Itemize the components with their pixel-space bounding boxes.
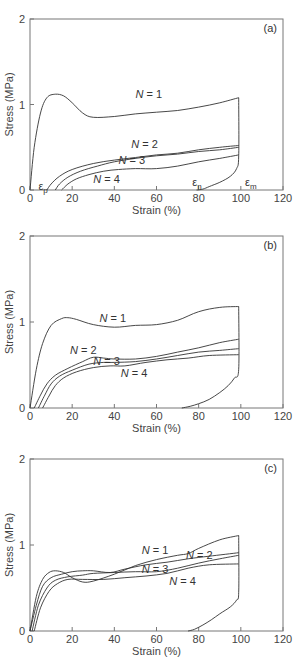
x-tick-label: 20 (66, 410, 78, 422)
series-label: N = 3 (119, 154, 146, 166)
chart-panel-b: 020406080100120012Strain (%)Stress (MPa)… (3, 230, 292, 434)
y-axis-label: Stress (MPa) (3, 290, 15, 354)
strain-annotation: εn (192, 176, 201, 191)
x-tick-label: 120 (274, 192, 292, 204)
x-tick-label: 0 (27, 410, 33, 422)
y-tick-label: 0 (19, 184, 25, 196)
series-label: N = 4 (169, 575, 196, 587)
x-axis-label: Strain (%) (132, 645, 181, 657)
plot-frame (30, 19, 283, 190)
curve-n1 (30, 307, 239, 409)
x-tick-label: 40 (108, 410, 120, 422)
panel-tag: (b) (264, 239, 277, 251)
series-label: N = 2 (131, 138, 158, 150)
y-tick-label: 0 (19, 402, 25, 414)
curve-n2 (30, 553, 239, 631)
x-tick-label: 40 (108, 633, 120, 645)
x-tick-label: 0 (27, 192, 33, 204)
panel-tag: (c) (264, 462, 277, 474)
x-tick-label: 20 (66, 192, 78, 204)
y-tick-label: 2 (19, 13, 25, 25)
series-label: N = 2 (186, 549, 213, 561)
curve-n4 (62, 155, 239, 190)
y-tick-label: 0 (19, 625, 25, 637)
x-tick-label: 80 (193, 192, 205, 204)
x-tick-label: 40 (108, 192, 120, 204)
x-tick-label: 60 (150, 633, 162, 645)
x-tick-label: 100 (232, 633, 250, 645)
x-tick-label: 80 (193, 633, 205, 645)
x-tick-label: 0 (27, 633, 33, 645)
series-label: N = 1 (135, 88, 162, 100)
x-tick-label: 80 (193, 410, 205, 422)
y-tick-label: 2 (19, 230, 25, 242)
series-label: N = 1 (100, 312, 127, 324)
x-tick-label: 60 (150, 410, 162, 422)
x-tick-label: 20 (66, 633, 78, 645)
y-tick-label: 2 (19, 453, 25, 465)
x-tick-label: 120 (274, 633, 292, 645)
strain-annotation: εm (245, 176, 257, 191)
x-axis-label: Strain (%) (132, 204, 181, 216)
y-tick-label: 1 (19, 316, 25, 328)
y-tick-label: 1 (19, 539, 25, 551)
curve-unload (197, 98, 239, 190)
x-tick-label: 60 (150, 192, 162, 204)
curve-n2 (47, 146, 239, 191)
strain-annotation: εp (38, 180, 48, 195)
chart-panel-a: 020406080100120012Strain (%)Stress (MPa)… (3, 13, 292, 216)
curve-unload (182, 307, 239, 409)
panel-tag: (a) (264, 22, 277, 34)
y-tick-label: 1 (19, 99, 25, 111)
series-label: N = 1 (142, 544, 169, 556)
x-tick-label: 100 (232, 410, 250, 422)
series-label: N = 3 (93, 355, 120, 367)
x-tick-label: 120 (274, 410, 292, 422)
y-axis-label: Stress (MPa) (3, 72, 15, 136)
chart-panel-c: 020406080100120012Strain (%)Stress (MPa)… (3, 453, 292, 657)
curve-n4 (34, 564, 239, 631)
x-axis-label: Strain (%) (132, 422, 181, 434)
series-label: N = 4 (121, 367, 148, 379)
series-label: N = 4 (93, 173, 120, 185)
stress-strain-figure: 020406080100120012Strain (%)Stress (MPa)… (0, 0, 300, 664)
curve-n4 (43, 355, 239, 408)
plot-frame (30, 236, 283, 408)
x-tick-label: 100 (232, 192, 250, 204)
y-axis-label: Stress (MPa) (3, 513, 15, 577)
